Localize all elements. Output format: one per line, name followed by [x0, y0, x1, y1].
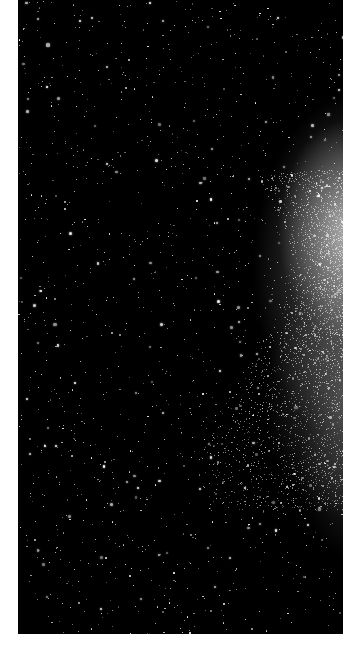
stars-layer [18, 0, 343, 634]
star-field-photo [18, 0, 343, 634]
